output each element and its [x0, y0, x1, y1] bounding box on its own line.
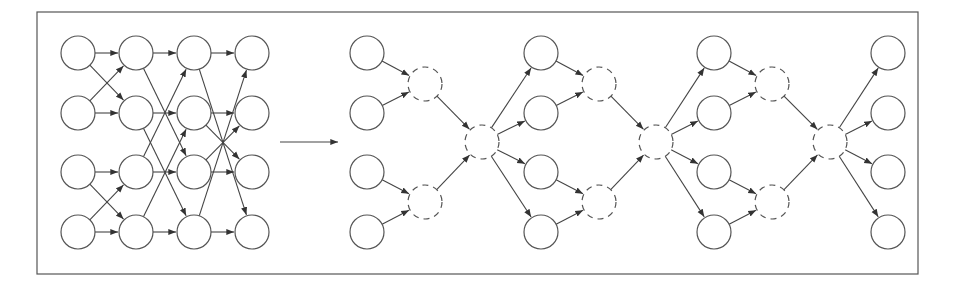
- solid-node: [524, 215, 558, 249]
- merge-node-dashed: [582, 67, 616, 101]
- edge-arrow: [382, 210, 409, 224]
- solid-node: [350, 96, 384, 130]
- edge-arrow: [671, 121, 698, 134]
- hub-node-dashed: [465, 125, 499, 159]
- hub-node-dashed: [813, 125, 847, 159]
- edge-arrow: [382, 180, 409, 194]
- edge-arrow: [729, 92, 756, 105]
- edge-arrow: [556, 210, 583, 224]
- butterfly-node: [61, 36, 95, 70]
- solid-node: [350, 215, 384, 249]
- butterfly-node: [177, 155, 211, 189]
- edge-arrow: [845, 150, 872, 164]
- merge-node-dashed: [755, 185, 789, 219]
- edge-arrow: [671, 150, 698, 164]
- edge-arrow: [437, 155, 470, 190]
- edge-arrow: [611, 96, 643, 129]
- merge-node-dashed: [408, 67, 442, 101]
- solid-node: [871, 36, 905, 70]
- edge-arrow: [611, 155, 644, 190]
- edge-arrow: [382, 61, 409, 76]
- solid-node: [871, 155, 905, 189]
- solid-node: [697, 155, 731, 189]
- nodes-layer: [61, 36, 905, 249]
- edge-arrow: [497, 121, 525, 135]
- butterfly-node: [119, 215, 153, 249]
- merge-node-dashed: [755, 67, 789, 101]
- solid-node: [350, 155, 384, 189]
- merge-node-dashed: [582, 185, 616, 219]
- butterfly-node: [235, 155, 269, 189]
- solid-node: [524, 155, 558, 189]
- solid-node: [524, 96, 558, 130]
- butterfly-node: [119, 155, 153, 189]
- edge-arrow: [556, 180, 583, 194]
- butterfly-node: [119, 96, 153, 130]
- edge-arrow: [382, 92, 409, 105]
- butterfly-node: [235, 36, 269, 70]
- solid-node: [524, 36, 558, 70]
- butterfly-node: [235, 215, 269, 249]
- merge-node-dashed: [408, 185, 442, 219]
- edge-arrow: [784, 96, 817, 129]
- edge-arrow: [556, 92, 583, 105]
- solid-node: [697, 215, 731, 249]
- solid-node: [697, 36, 731, 70]
- hub-node-dashed: [639, 125, 673, 159]
- butterfly-node: [119, 36, 153, 70]
- edge-arrow: [556, 61, 583, 76]
- butterfly-node: [177, 215, 211, 249]
- solid-node: [871, 96, 905, 130]
- butterfly-node: [61, 155, 95, 189]
- edge-arrow: [729, 61, 756, 76]
- butterfly-node: [177, 96, 211, 130]
- solid-node: [350, 36, 384, 70]
- edge-arrow: [729, 180, 756, 194]
- edge-arrow: [437, 96, 469, 129]
- edge-arrow: [784, 155, 818, 190]
- solid-node: [871, 215, 905, 249]
- edge-arrow: [497, 150, 525, 164]
- edge-arrow: [729, 210, 756, 224]
- butterfly-network-diagram: [0, 0, 956, 287]
- edge-arrow: [845, 121, 872, 134]
- butterfly-node: [235, 96, 269, 130]
- butterfly-node: [177, 36, 211, 70]
- butterfly-node: [61, 96, 95, 130]
- butterfly-node: [61, 215, 95, 249]
- solid-node: [697, 96, 731, 130]
